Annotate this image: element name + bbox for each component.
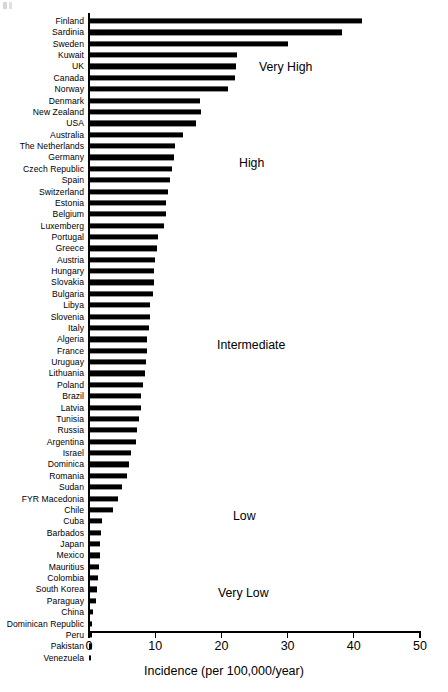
- category-label: Venezuela: [43, 653, 84, 662]
- bar: [89, 382, 143, 387]
- category-label: Mauritius: [49, 562, 84, 571]
- category-label: Hungary: [51, 267, 84, 276]
- bar: [89, 269, 154, 274]
- category-label: Brazil: [62, 392, 84, 401]
- bar: [89, 450, 131, 455]
- chart-row: Tunisia: [0, 413, 448, 424]
- bar: [89, 462, 129, 467]
- plot-area: FinlandSardiniaSwedenKuwaitUKCanadaNorwa…: [0, 0, 448, 692]
- bar: [89, 541, 100, 546]
- category-label: Paraguay: [47, 596, 84, 605]
- chart-row: Estonia: [0, 197, 448, 208]
- chart-row: USA: [0, 118, 448, 129]
- band-label: Very High: [259, 60, 312, 74]
- bar: [89, 143, 175, 148]
- bar: [89, 655, 91, 660]
- chart-row: Kuwait: [0, 49, 448, 60]
- category-label: Bulgaria: [52, 289, 84, 298]
- chart-row: The Netherlands: [0, 140, 448, 151]
- chart-row: Brazil: [0, 391, 448, 402]
- bar: [89, 64, 236, 69]
- chart-row: Czech Republic: [0, 163, 448, 174]
- bar: [89, 87, 228, 92]
- bar: [89, 564, 99, 569]
- category-label: Sweden: [53, 39, 84, 48]
- band-label: Low: [233, 509, 256, 523]
- category-label: Portugal: [52, 233, 84, 242]
- category-label: Barbados: [47, 528, 84, 537]
- bar: [89, 348, 147, 353]
- category-label: South Korea: [36, 585, 84, 594]
- chart-row: Dominica: [0, 459, 448, 470]
- category-label: France: [57, 346, 84, 355]
- bar: [89, 496, 118, 501]
- bar: [89, 189, 168, 194]
- chart-row: Japan: [0, 538, 448, 549]
- chart-row: Latvia: [0, 402, 448, 413]
- chart-row: Austria: [0, 254, 448, 265]
- bar: [89, 41, 288, 46]
- chart-row: Italy: [0, 322, 448, 333]
- chart-row: Argentina: [0, 436, 448, 447]
- category-label: Japan: [60, 540, 84, 549]
- bar: [89, 178, 170, 183]
- x-tick-mark: [419, 632, 420, 638]
- chart-row: Slovakia: [0, 277, 448, 288]
- chart-row: Switzerland: [0, 186, 448, 197]
- x-tick-label: 0: [69, 639, 109, 653]
- chart-row: Romania: [0, 470, 448, 481]
- bar: [89, 109, 201, 114]
- bar: [89, 394, 141, 399]
- x-tick-mark: [88, 632, 89, 638]
- chart-row: Mexico: [0, 550, 448, 561]
- bar: [89, 212, 166, 217]
- category-label: Chile: [64, 505, 84, 514]
- chart-row: Finland: [0, 15, 448, 26]
- chart-row: Luxemberg: [0, 220, 448, 231]
- chart-row: Canada: [0, 72, 448, 83]
- chart-row: Australia: [0, 129, 448, 140]
- bar: [89, 428, 137, 433]
- chart-row: Libya: [0, 300, 448, 311]
- category-label: Austria: [57, 255, 84, 264]
- category-label: Slovakia: [51, 278, 84, 287]
- bar: [89, 587, 97, 592]
- chart-row: Israel: [0, 447, 448, 458]
- incidence-bar-chart-figure: FinlandSardiniaSwedenKuwaitUKCanadaNorwa…: [0, 0, 448, 692]
- bar: [89, 234, 158, 239]
- category-label: Slovenia: [51, 312, 84, 321]
- category-label: Dominican Republic: [7, 619, 84, 628]
- category-label: Estonia: [55, 198, 84, 207]
- chart-row: Venezuela: [0, 652, 448, 663]
- bar: [89, 337, 147, 342]
- bar: [89, 519, 102, 524]
- bar: [89, 416, 139, 421]
- category-label: Latvia: [61, 403, 84, 412]
- chart-row: Colombia: [0, 572, 448, 583]
- x-tick-mark: [155, 632, 156, 638]
- bar: [89, 507, 113, 512]
- category-label: Greece: [56, 244, 84, 253]
- chart-row: Belgium: [0, 209, 448, 220]
- category-label: Colombia: [47, 574, 84, 583]
- chart-row: Poland: [0, 379, 448, 390]
- bar: [89, 98, 200, 103]
- category-label: Cuba: [63, 517, 84, 526]
- x-tick-label: 40: [334, 639, 374, 653]
- chart-row: Bulgaria: [0, 288, 448, 299]
- band-label: High: [239, 156, 264, 170]
- x-tick-label: 30: [268, 639, 308, 653]
- chart-row: Sweden: [0, 38, 448, 49]
- category-label: Libya: [63, 301, 84, 310]
- bar: [89, 576, 98, 581]
- bar: [89, 53, 237, 58]
- chart-row: FYR Macedonia: [0, 493, 448, 504]
- category-label: The Netherlands: [20, 142, 84, 151]
- x-tick-label: 10: [135, 639, 175, 653]
- chart-row: Greece: [0, 243, 448, 254]
- x-tick-mark: [221, 632, 222, 638]
- bar: [89, 610, 93, 615]
- category-label: USA: [66, 119, 84, 128]
- category-label: Algeria: [57, 335, 84, 344]
- chart-row: Cuba: [0, 516, 448, 527]
